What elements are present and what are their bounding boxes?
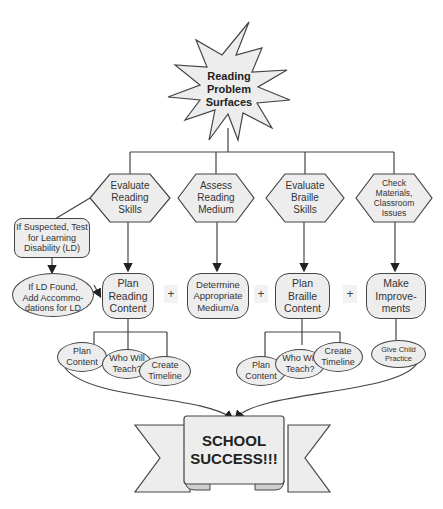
banner-left-tail xyxy=(135,425,190,492)
node-braille-timeline: Create Timeline xyxy=(313,342,363,372)
node-plan-reading: Plan Reading Content xyxy=(102,273,154,319)
node-reading-plan-content: Plan Content xyxy=(57,342,107,372)
plus-sign: + xyxy=(254,285,268,303)
node-give-practice: Give Child Practice xyxy=(371,340,426,368)
node-reading-timeline: Create Timeline xyxy=(139,356,191,386)
plus-sign: + xyxy=(343,285,357,303)
node-plan-braille: Plan Braille Content xyxy=(275,273,330,319)
node-determine-medium: Determine Appropriate Medium/a xyxy=(187,273,249,319)
node-make-improvements: Make Improve- ments xyxy=(366,273,426,319)
banner-right-tail xyxy=(288,425,330,492)
outcome-label: SCHOOL SUCCESS!!! xyxy=(184,432,284,468)
plus-sign: + xyxy=(164,285,178,303)
node-ld-test: If Suspected, Test for Learning Disabili… xyxy=(14,218,90,258)
node-ld-accommodate: If LD Found, Add Accommo- dations for LD xyxy=(12,273,94,317)
node-evaluate-braille: Evaluate Braille Skills xyxy=(275,176,335,220)
node-assess-medium: Assess Reading Medium xyxy=(186,176,246,220)
start-label: Reading Problem Surfaces xyxy=(198,70,260,110)
node-evaluate-reading: Evaluate Reading Skills xyxy=(100,176,160,220)
node-check-materials: Check Materials, Classroom Issues xyxy=(364,176,424,220)
